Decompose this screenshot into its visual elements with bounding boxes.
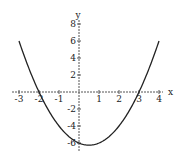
x-tick-label: -3 bbox=[15, 94, 24, 104]
x-tick-label: 1 bbox=[96, 94, 102, 104]
parabola-chart: -3-2-112348642-2-4-6 x y bbox=[0, 0, 185, 165]
axis-ticks bbox=[19, 24, 159, 143]
y-tick-label: -2 bbox=[67, 104, 76, 114]
axes bbox=[12, 20, 163, 152]
y-tick-label: 8 bbox=[70, 19, 76, 29]
y-axis-label: y bbox=[74, 10, 81, 20]
y-tick-label: -4 bbox=[67, 121, 76, 131]
y-tick-label: 2 bbox=[70, 70, 76, 80]
tick-labels: -3-2-112348642-2-4-6 bbox=[15, 19, 163, 148]
x-axis-label: x bbox=[168, 87, 173, 97]
x-tick-label: 4 bbox=[156, 94, 162, 104]
y-tick-label: 4 bbox=[70, 53, 76, 63]
x-tick-label: -1 bbox=[55, 94, 64, 104]
parabola-curve bbox=[19, 41, 159, 145]
x-tick-label: 2 bbox=[116, 94, 122, 104]
y-tick-label: 6 bbox=[70, 36, 76, 46]
